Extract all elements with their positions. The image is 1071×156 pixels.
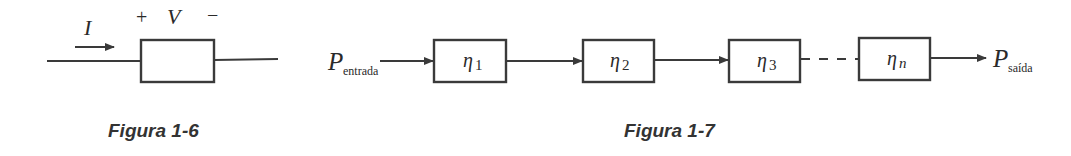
stage-block-1: η 1	[434, 40, 506, 82]
plus-sign: +	[136, 6, 147, 28]
stage-symbol: η	[610, 49, 620, 72]
voltage-label: V	[167, 4, 183, 29]
figure-caption: Figura 1-7	[624, 120, 716, 141]
stage-index: 3	[769, 57, 777, 73]
stage-block-2: η 2	[583, 40, 654, 82]
stage-symbol: η	[463, 49, 473, 72]
circuit-element-box	[141, 40, 214, 82]
figure-1-6: I + V − Figura 1-6	[47, 4, 278, 141]
figure-1-7: P entrada η 1 η 2 η 3 η n	[327, 38, 1033, 141]
current-label: I	[83, 15, 93, 40]
output-power-symbol: P	[992, 45, 1008, 72]
stage-index: 1	[475, 57, 483, 73]
stage-index: n	[899, 55, 907, 71]
stage-block-n: η n	[859, 38, 930, 80]
input-power-symbol: P	[327, 48, 343, 75]
diagram-canvas: I + V − Figura 1-6 P entrada η 1 η 2	[0, 0, 1071, 156]
input-power-label: P entrada	[327, 48, 379, 78]
stage-symbol: η	[757, 49, 767, 72]
output-power-subscript: saída	[1008, 61, 1033, 75]
stage-block-3: η 3	[729, 40, 800, 82]
minus-sign: −	[207, 4, 218, 26]
right-wire	[214, 59, 278, 60]
stage-index: 2	[622, 57, 630, 73]
figure-caption: Figura 1-6	[108, 120, 199, 141]
output-power-label: P saída	[992, 45, 1033, 75]
input-power-subscript: entrada	[343, 64, 379, 78]
stage-symbol: η	[887, 47, 897, 70]
